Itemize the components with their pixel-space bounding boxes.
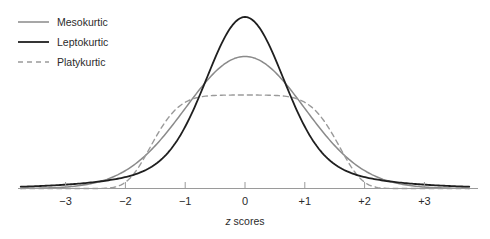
- x-axis-title: z scores: [224, 215, 264, 227]
- x-axis-tick-label: −2: [119, 195, 132, 207]
- legend-label-mesokurtic: Mesokurtic: [57, 16, 108, 28]
- x-axis-tick-label: +1: [299, 195, 312, 207]
- x-axis-tick-labels: −3−2−10+1+2+3: [59, 195, 430, 207]
- kurtosis-chart-svg: −3−2−10+1+2+3 z scores MesokurticLeptoku…: [0, 0, 490, 239]
- x-axis-tick-label: −1: [179, 195, 192, 207]
- legend-label-platykurtic: Platykurtic: [57, 56, 105, 68]
- x-axis-tick-label: +2: [358, 195, 371, 207]
- kurtosis-distribution-figure: −3−2−10+1+2+3 z scores MesokurticLeptoku…: [0, 0, 490, 239]
- x-axis-tick-label: +3: [418, 195, 431, 207]
- x-axis-tick-label: 0: [242, 195, 248, 207]
- curve-platykurtic: [21, 95, 470, 188]
- legend-label-leptokurtic: Leptokurtic: [57, 36, 108, 48]
- x-axis-title-rest: scores: [231, 215, 265, 227]
- legend: MesokurticLeptokurticPlatykurtic: [18, 16, 108, 68]
- x-axis-tick-label: −3: [59, 195, 72, 207]
- curve-mesokurtic: [21, 56, 470, 188]
